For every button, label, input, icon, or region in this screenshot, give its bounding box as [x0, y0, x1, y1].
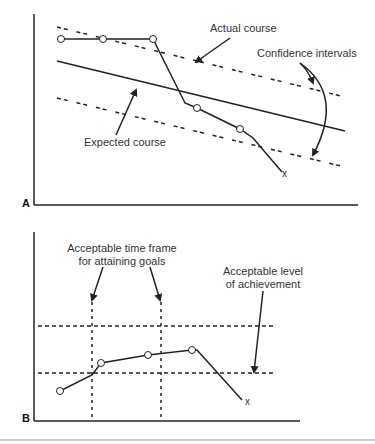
time-frame-label-line2: for attaining goals [62, 255, 182, 268]
actual-course-line [61, 39, 282, 172]
time-frame-label: Acceptable time frame for attaining goal… [62, 242, 182, 268]
panel-a-end-marker: x [282, 167, 287, 180]
panel-b-end-marker: x [245, 395, 250, 408]
achievement-level-label: Acceptable level of achievement [213, 265, 313, 291]
lower-confidence-interval [57, 98, 345, 167]
time-frame-arrow-left [92, 267, 103, 300]
panel-b-letter: B [22, 412, 30, 424]
actual-course-arrow [196, 38, 230, 62]
achievement-markers [57, 347, 196, 395]
expected-course-line [57, 61, 345, 131]
diagram-canvas [0, 0, 375, 444]
time-frame-label-line1: Acceptable time frame [62, 242, 182, 255]
panel-a [34, 14, 358, 205]
achievement-level-label-line1: Acceptable level [213, 265, 313, 278]
time-frame-arrow-right [150, 267, 160, 300]
achievement-arrow [254, 291, 263, 372]
confidence-intervals-label: Confidence intervals [257, 47, 357, 60]
confidence-arrow-lower [300, 63, 326, 155]
achievement-level-label-line2: of achievement [213, 278, 313, 291]
expected-course-label: Expected course [84, 136, 166, 149]
panel-a-letter: A [22, 197, 30, 209]
actual-course-label: Actual course [210, 22, 277, 35]
